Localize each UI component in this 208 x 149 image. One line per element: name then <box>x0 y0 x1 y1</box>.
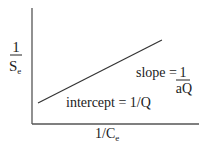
slope-annotation-prefix: slope = <box>136 65 177 80</box>
y-label-denominator-main: S <box>9 58 17 74</box>
x-label-sub: e <box>115 133 119 143</box>
x-label-main: 1/C <box>95 126 115 141</box>
slope-annotation-denominator: aQ <box>176 81 192 96</box>
y-label-numerator: 1 <box>12 39 20 55</box>
intercept-annotation: intercept = 1/Q <box>66 95 151 110</box>
y-label-denominator-sub: e <box>17 66 21 76</box>
slope-annotation-numerator: 1 <box>180 65 187 80</box>
x-label: 1/Ce <box>95 126 119 143</box>
y-label-denominator: Se <box>9 58 21 76</box>
langmuir-plot: 1 Se 1/Ce slope = 1 aQ intercept = 1/Q <box>0 0 208 149</box>
